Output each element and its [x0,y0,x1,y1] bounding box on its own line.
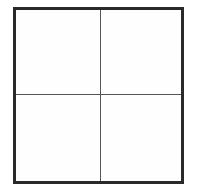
grid-cell-bottom-left [16,95,100,181]
horizontal-divider [16,94,181,95]
grid-outer-box [13,7,184,184]
diagram-canvas [0,0,201,186]
grid-cell-bottom-right [101,95,181,181]
vertical-divider [100,10,101,181]
grid-cell-top-right [101,10,181,94]
grid-cell-top-left [16,10,100,94]
